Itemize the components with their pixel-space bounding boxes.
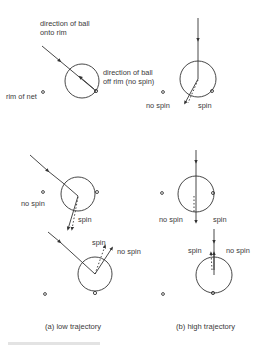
label-b1-no-spin: no spin: [146, 101, 170, 110]
label-line: direction of ball: [103, 68, 154, 77]
label-a3-no-spin: no spin: [117, 247, 141, 256]
figure-caption-faint: [8, 342, 100, 345]
label-b3-spin: spin: [188, 246, 202, 255]
label-a3-spin: spin: [92, 238, 106, 247]
label-direction-onto-rim: direction of ball onto rim: [40, 19, 90, 37]
label-b1-spin: spin: [198, 101, 212, 110]
panel-b3: [162, 229, 232, 295]
label-line: direction of ball: [40, 19, 90, 28]
label-line: off rim (no spin): [103, 77, 154, 86]
label-a2-no-spin: no spin: [21, 199, 45, 208]
label-direction-off-rim: direction of ball off rim (no spin): [103, 68, 154, 86]
panel-b2: [161, 150, 215, 222]
caption-low-trajectory: (a) low trajectory: [45, 322, 101, 331]
label-b2-no-spin: no spin: [159, 215, 183, 224]
rim-of-net-marker-icon: [42, 91, 45, 94]
label-b3-no-spin: no spin: [226, 246, 250, 255]
label-rim-of-net: rim of net: [6, 92, 37, 101]
label-a2-spin: spin: [78, 215, 92, 224]
caption-high-trajectory: (b) high trajectory: [176, 322, 235, 331]
label-line: onto rim: [40, 28, 90, 37]
panel-a1: [42, 46, 99, 98]
label-b2-spin: spin: [213, 215, 227, 224]
basketball-rim-diagram: [0, 0, 268, 348]
panel-b1: [162, 18, 216, 103]
